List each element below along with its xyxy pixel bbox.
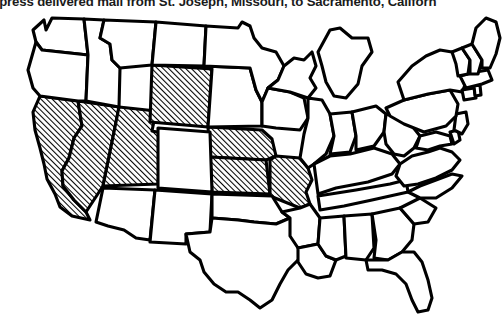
pony-express-map-figure: xpress delivered mail from St. Joseph, M… (0, 0, 502, 315)
state-ohio (352, 106, 386, 150)
state-north-dakota (152, 22, 206, 66)
state-wyoming (150, 65, 212, 127)
state-colorado (158, 128, 212, 192)
us-states-map (0, 8, 502, 315)
states-group (28, 18, 500, 312)
state-maryland (416, 132, 452, 150)
us-map-container (0, 8, 502, 315)
state-texas (186, 218, 306, 308)
state-florida (366, 252, 432, 312)
state-arizona (96, 188, 155, 240)
state-alabama (344, 214, 374, 260)
state-michigan (318, 28, 372, 98)
state-kansas (210, 157, 270, 194)
state-nebraska (208, 127, 276, 160)
